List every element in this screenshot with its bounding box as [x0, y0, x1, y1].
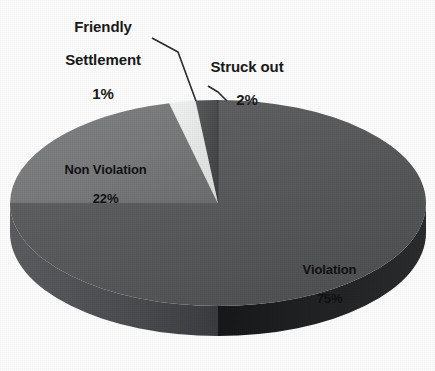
slice-value-struck-out: 2%: [186, 92, 308, 109]
slice-label-struck-out: Struck out 2%: [186, 42, 308, 126]
slice-label-friendly-settlement: Friendly Settlement 1%: [38, 2, 168, 120]
slice-value-non-violation: 22%: [38, 192, 173, 207]
pie-chart: Friendly Settlement 1% Struck out 2% Non…: [0, 0, 435, 371]
slice-label-violation-line1: Violation: [272, 263, 387, 278]
slice-label-friendly-settlement-line2: Settlement: [38, 52, 168, 69]
slice-value-violation: 75%: [272, 292, 387, 307]
slice-label-non-violation: Non Violation 22%: [38, 148, 173, 221]
slice-label-non-violation-line1: Non Violation: [38, 163, 173, 178]
slice-value-friendly-settlement: 1%: [38, 86, 168, 103]
slice-label-struck-out-line1: Struck out: [186, 59, 308, 76]
slice-label-friendly-settlement-line1: Friendly: [38, 19, 168, 36]
slice-label-violation: Violation 75%: [272, 248, 387, 321]
